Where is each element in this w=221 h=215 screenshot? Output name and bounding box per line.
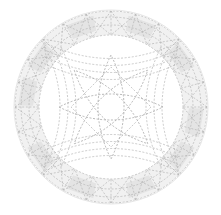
arch-line — [41, 142, 181, 160]
petal-lens — [74, 70, 148, 144]
center-diamond — [71, 67, 151, 147]
concentric-rings — [14, 10, 208, 204]
arch-line — [41, 135, 181, 153]
arch-bands — [41, 41, 181, 173]
petal-lens — [74, 70, 148, 144]
geometric-pattern-diagram — [0, 0, 221, 215]
petal-lens — [59, 94, 163, 120]
arch-line — [41, 62, 181, 80]
arch-line — [41, 55, 181, 73]
petal-lens — [98, 55, 124, 159]
radial-lines — [15, 11, 207, 203]
side-arch-line — [146, 47, 161, 167]
central-flower-petals — [59, 55, 163, 159]
side-arch-line — [61, 47, 76, 167]
pattern-svg — [0, 0, 221, 215]
